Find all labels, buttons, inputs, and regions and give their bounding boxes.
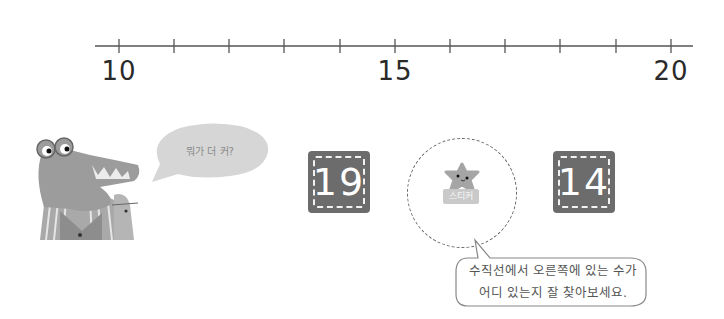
number-card-14[interactable]: 14: [553, 151, 615, 213]
tick-label-20: 20: [653, 56, 688, 86]
number-line: [0, 0, 724, 60]
speech-bubble-text: 뭐가 더 커?: [170, 143, 250, 158]
card-number: 19: [308, 160, 370, 204]
sticker-label: 스티커: [443, 189, 479, 204]
tick-label-15: 15: [377, 56, 412, 86]
crocodile-character: [30, 135, 145, 240]
card-number: 14: [553, 160, 615, 204]
tick-label-10: 10: [101, 56, 136, 86]
hint-line-1: 수직선에서 오른쪽에 있는 수가: [458, 260, 648, 282]
number-card-19[interactable]: 19: [308, 151, 370, 213]
hint-line-2: 어디 있는지 잘 찾아보세요.: [458, 282, 648, 304]
